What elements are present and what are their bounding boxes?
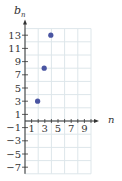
data-point: [48, 33, 53, 38]
scatter-plot: 13579131197531−1−3−5−7: [0, 0, 122, 181]
y-tick-label: 5: [15, 83, 21, 94]
y-tick-label: 11: [8, 43, 21, 54]
x-tick-label: 1: [28, 123, 34, 134]
y-tick-label: 1: [15, 109, 21, 120]
y-tick-label: −1: [6, 122, 21, 133]
y-tick-label: 9: [15, 56, 21, 67]
y-tick-label: −5: [6, 149, 21, 160]
y-axis-label: bn: [14, 6, 26, 20]
x-tick-label: 7: [68, 123, 74, 134]
data-point: [35, 99, 40, 104]
x-arrow-icon: [94, 119, 99, 123]
y-tick-label: −3: [6, 135, 21, 146]
x-tick-label: 3: [42, 123, 48, 134]
y-tick-label: −7: [6, 162, 21, 173]
x-tick-label: 5: [55, 123, 61, 134]
grid: [25, 29, 91, 174]
y-tick-label: 13: [8, 30, 21, 41]
x-tick-label: 9: [81, 123, 87, 134]
y-tick-label: 7: [15, 69, 21, 80]
y-tick-label: 3: [15, 96, 21, 107]
y-arrow-icon: [23, 20, 27, 25]
data-point: [42, 66, 47, 71]
x-axis-label: n: [108, 115, 114, 125]
